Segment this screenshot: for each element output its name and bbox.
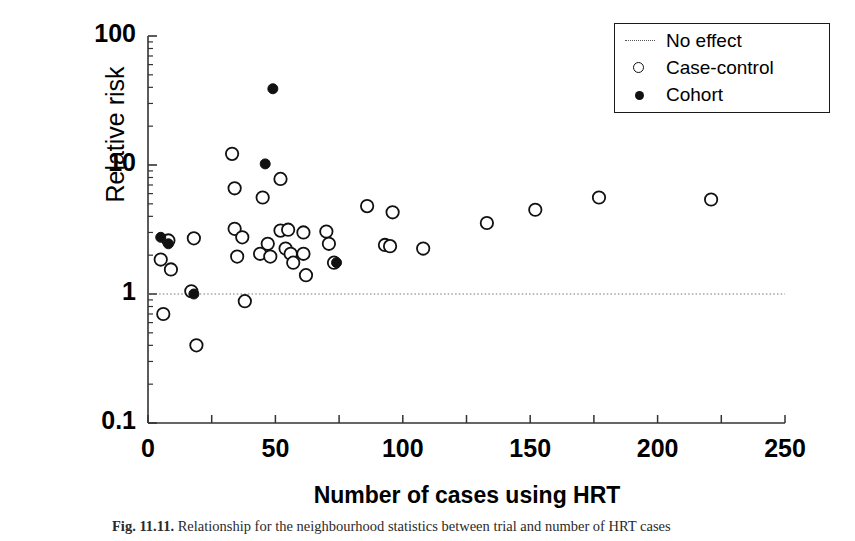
x-tick-label-200: 200 [618,434,698,463]
open-circle-key-icon [623,58,657,78]
legend-item-cohort: Cohort [623,82,723,108]
y-tick-label-10: 10 [50,148,136,177]
legend-label-case-control: Case-control [666,57,774,79]
y-tick-label-1: 1 [50,277,136,306]
x-tick-label-150: 150 [490,434,570,463]
dotted-line-key-icon [623,31,657,51]
x-axis-label: Number of cases using HRT [148,482,786,509]
legend-label-cohort: Cohort [666,84,723,106]
y-tick-label-100: 100 [50,19,136,48]
y-tick-label-0-1: 0.1 [50,406,136,435]
legend: No effect Case-control Cohort [614,23,830,113]
filled-circle-key-icon [623,85,657,105]
caption-text: Relationship for the neighbourhood stati… [178,518,671,534]
legend-item-case-control: Case-control [623,55,774,81]
figure-caption: Fig. 11.11. Relationship for the neighbo… [112,516,812,541]
x-tick-label-0: 0 [108,434,188,463]
x-tick-label-250: 250 [745,434,825,463]
x-tick-label-100: 100 [363,434,443,463]
legend-item-no-effect: No effect [623,28,742,54]
y-axis-label: Relative risk [101,15,130,255]
x-tick-label-50: 50 [235,434,315,463]
caption-figure-label: Fig. 11.11. [112,518,174,534]
figure-container: Relative risk Number of cases using HRT … [0,0,855,541]
legend-label-no-effect: No effect [666,30,742,52]
